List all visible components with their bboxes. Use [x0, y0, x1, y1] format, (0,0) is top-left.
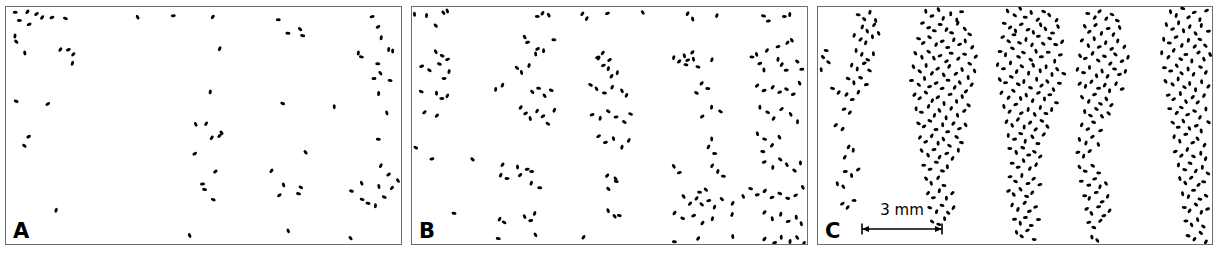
scatter-mark — [916, 121, 922, 126]
scatter-mark — [584, 16, 589, 22]
scatter-mark — [690, 50, 696, 56]
scatter-mark — [1005, 8, 1010, 14]
scatter-mark — [933, 81, 939, 86]
scatter-mark — [1178, 105, 1184, 110]
scatter-mark — [687, 201, 693, 207]
scatter-mark — [758, 105, 761, 110]
scatter-mark — [1033, 205, 1039, 210]
scatter-mark — [925, 190, 930, 196]
scatter-mark — [937, 154, 942, 160]
scatter-mark — [535, 15, 540, 18]
scatter-mark — [535, 46, 541, 51]
scatter-mark — [604, 173, 610, 179]
scatter-mark — [672, 55, 676, 61]
scatter-mark — [1126, 54, 1131, 60]
scatter-mark — [867, 68, 873, 73]
scatter-mark — [1030, 134, 1035, 140]
scatter-mark — [1013, 102, 1019, 107]
scatter-mark — [1173, 35, 1179, 40]
scatter-mark — [1093, 106, 1099, 111]
scatter-mark — [1035, 17, 1041, 22]
scatter-mark — [939, 39, 945, 43]
scatter-mark — [1096, 205, 1101, 209]
scatter-mark — [1170, 27, 1176, 32]
scatter-mark — [192, 151, 198, 156]
scatter-mark — [1185, 147, 1190, 153]
scatter-mark — [1075, 66, 1080, 72]
scatter-mark — [1007, 133, 1010, 138]
scatter-mark — [1010, 202, 1015, 208]
scatter-mark — [1188, 175, 1194, 180]
scatter-mark — [1191, 189, 1196, 192]
scatter-mark — [375, 62, 380, 65]
scatter-mark — [217, 46, 222, 52]
scatter-mark — [1203, 156, 1208, 162]
scatter-mark — [1187, 24, 1192, 30]
scatter-mark — [957, 42, 963, 46]
scatter-mark — [1174, 13, 1178, 19]
scatter-mark — [1206, 84, 1212, 90]
scatter-mark — [1028, 57, 1034, 62]
scatter-mark — [1012, 137, 1017, 141]
scatter-mark — [1199, 209, 1204, 215]
scatter-mark — [1174, 110, 1180, 116]
scatter-mark — [1027, 209, 1033, 213]
scatter-mark — [619, 88, 624, 94]
scatter-mark — [1198, 65, 1204, 70]
scatter-mark — [610, 84, 615, 90]
scatter-mark — [1098, 184, 1102, 190]
scatter-mark — [381, 195, 387, 200]
scatter-mark — [784, 162, 789, 168]
scatter-mark — [496, 237, 501, 241]
scatter-mark — [204, 121, 209, 127]
scatter-mark — [923, 176, 929, 182]
scatter-mark — [1010, 123, 1015, 129]
scatter-mark — [1193, 202, 1199, 207]
scatter-mark — [1094, 73, 1098, 79]
scatter-mark — [1007, 147, 1012, 150]
scatter-mark — [1024, 37, 1028, 42]
scatter-mark — [1187, 208, 1192, 214]
scatter-mark — [772, 241, 778, 244]
scatter-mark — [613, 115, 618, 119]
scatter-mark — [1053, 59, 1056, 64]
scatter-mark — [1181, 191, 1185, 196]
scatter-mark — [926, 49, 932, 54]
scatter-mark — [944, 115, 947, 120]
scatter-mark — [1201, 180, 1206, 184]
scatter-mark — [926, 152, 931, 158]
scatter-mark — [1090, 134, 1096, 139]
scatter-mark — [865, 57, 871, 62]
scatter-mark — [500, 82, 505, 88]
scatter-mark — [845, 76, 851, 81]
scatter-mark — [1086, 183, 1091, 186]
scatter-mark — [276, 192, 282, 197]
scatter-mark — [771, 116, 776, 122]
scatter-mark — [966, 75, 970, 80]
scatter-mark — [876, 30, 881, 36]
scatter-mark — [1026, 153, 1031, 157]
scatter-mark — [281, 182, 286, 188]
scatter-mark — [505, 177, 510, 180]
scatter-mark — [1083, 109, 1087, 114]
scatter-mark — [433, 23, 439, 29]
scatter-mark — [757, 61, 763, 65]
scatter-mark — [949, 31, 955, 35]
scatter-mark — [1018, 111, 1024, 116]
scatter-mark — [855, 167, 861, 172]
scatter-mark — [930, 98, 935, 104]
scatter-mark — [949, 11, 952, 16]
scatter-mark — [1006, 188, 1012, 193]
scatter-mark — [1040, 41, 1046, 46]
scatter-mark — [861, 16, 867, 22]
scatter-mark — [715, 13, 720, 19]
scatter-mark — [952, 85, 957, 91]
scatter-mark — [1025, 182, 1030, 186]
scatter-mark — [528, 116, 532, 122]
scatter-mark — [212, 169, 218, 174]
scatter-mark — [1186, 15, 1192, 20]
scatter-mark — [1018, 221, 1022, 226]
scatter-mark — [920, 54, 925, 60]
scatter-mark — [945, 130, 950, 134]
scatter-mark — [1079, 94, 1085, 100]
